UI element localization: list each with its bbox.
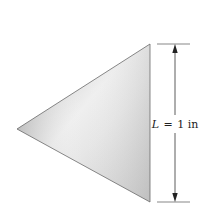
dimension-symbol: L (151, 118, 159, 131)
dimension-label: L = 1 in (151, 118, 199, 131)
dimension-value: 1 in (177, 118, 198, 131)
triangle-shape (17, 44, 150, 202)
arrowhead-down-icon (172, 193, 177, 202)
dimension-equals: = (163, 118, 172, 131)
arrowhead-up-icon (172, 44, 177, 53)
triangle-diagram: L = 1 in (0, 0, 213, 219)
